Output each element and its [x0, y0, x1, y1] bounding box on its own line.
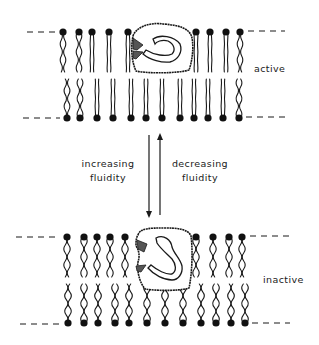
- lipid-top: [80, 233, 87, 277]
- lipid-head-icon: [121, 233, 128, 240]
- lipid-bottom: [109, 79, 116, 122]
- lipid-bottom: [143, 284, 150, 327]
- lipid-head-icon: [241, 319, 248, 326]
- lipid-top: [105, 28, 112, 72]
- lipid-bottom: [111, 284, 118, 327]
- label-decreasing-fluidity: decreasing fluidity: [169, 157, 231, 185]
- lipid-head-icon: [235, 114, 242, 121]
- lipid-bottom: [93, 79, 100, 122]
- lipid-bottom: [125, 284, 132, 327]
- lipid-bottom: [80, 284, 87, 327]
- lipid-head-icon: [219, 114, 226, 121]
- lipid-head-icon: [105, 28, 112, 35]
- membrane-fluidity-diagram: [0, 0, 319, 345]
- label-inactive: inactive: [263, 273, 304, 287]
- lipid-bottom: [158, 79, 165, 122]
- lipid-head-icon: [179, 319, 186, 326]
- lipid-bottom: [176, 79, 183, 122]
- lipid-top: [75, 28, 82, 72]
- lipid-top: [124, 28, 131, 72]
- lipid-top: [225, 233, 232, 277]
- lipid-top: [206, 28, 213, 72]
- enzyme-protein-inactive-icon: [136, 228, 192, 290]
- lipid-top: [106, 233, 113, 277]
- lipid-head-icon: [143, 319, 150, 326]
- lipid-bottom: [63, 79, 70, 122]
- active-bilayer: [23, 24, 285, 122]
- lipid-head-icon: [76, 114, 83, 121]
- lipid-head-icon: [111, 319, 118, 326]
- label-increasing-fluidity: increasing fluidity: [78, 157, 138, 185]
- lipid-head-icon: [59, 28, 66, 35]
- lipid-head-icon: [80, 319, 87, 326]
- lipid-bottom: [76, 79, 83, 122]
- lipid-top: [63, 233, 70, 277]
- lipid-top: [93, 233, 100, 277]
- lipid-head-icon: [212, 319, 219, 326]
- lipid-head-icon: [161, 319, 168, 326]
- lipid-head-icon: [63, 233, 70, 240]
- lipid-head-icon: [127, 114, 134, 121]
- lipid-head-icon: [94, 319, 101, 326]
- lipid-head-icon: [124, 28, 131, 35]
- increasing-line-1: increasing: [78, 157, 138, 171]
- lipid-bottom: [227, 284, 234, 327]
- lipid-bottom: [235, 79, 242, 122]
- lipid-head-icon: [192, 28, 199, 35]
- enzyme-protein-active-icon: [132, 24, 193, 73]
- lipid-bottom: [219, 79, 226, 122]
- lipid-head-icon: [209, 233, 216, 240]
- lipid-top: [209, 233, 216, 277]
- lipid-head-icon: [158, 114, 165, 121]
- lipid-bottom: [190, 79, 197, 122]
- lipid-top: [238, 233, 245, 277]
- active-label: active: [254, 63, 285, 74]
- lipid-bottom: [64, 284, 71, 327]
- decreasing-line-2: fluidity: [169, 171, 231, 185]
- lipid-head-icon: [176, 114, 183, 121]
- lipid-head-icon: [125, 319, 132, 326]
- lipid-bottom: [212, 284, 219, 327]
- lipid-bottom: [204, 79, 211, 122]
- lipid-head-icon: [222, 28, 229, 35]
- lipid-bottom: [142, 79, 149, 122]
- inactive-label: inactive: [263, 274, 304, 285]
- increasing-line-2: fluidity: [78, 171, 138, 185]
- lipid-top: [236, 28, 243, 72]
- lipid-head-icon: [93, 114, 100, 121]
- lipid-head-icon: [227, 319, 234, 326]
- lipid-head-icon: [93, 233, 100, 240]
- lipid-head-icon: [225, 233, 232, 240]
- decreasing-line-1: decreasing: [169, 157, 231, 171]
- lipid-head-icon: [190, 114, 197, 121]
- label-active: active: [254, 62, 285, 76]
- lipid-bottom: [94, 284, 101, 327]
- lipid-head-icon: [142, 114, 149, 121]
- lipid-bottom: [197, 284, 204, 327]
- lipid-head-icon: [64, 319, 71, 326]
- lipid-bottom: [179, 284, 186, 327]
- inactive-bilayer: [16, 228, 290, 327]
- lipid-head-icon: [75, 28, 82, 35]
- arrow-up-head-icon: [157, 133, 163, 140]
- lipid-top: [192, 233, 199, 277]
- lipid-head-icon: [206, 28, 213, 35]
- lipid-head-icon: [238, 233, 245, 240]
- lipid-bottom: [241, 284, 248, 327]
- lipid-head-icon: [88, 28, 95, 35]
- lipid-top: [121, 233, 128, 277]
- fluidity-arrows: [146, 133, 163, 218]
- lipid-head-icon: [204, 114, 211, 121]
- lipid-head-icon: [63, 114, 70, 121]
- lipid-head-icon: [80, 233, 87, 240]
- lipid-top: [59, 28, 66, 72]
- lipid-top: [222, 28, 229, 72]
- arrow-down-head-icon: [146, 211, 152, 218]
- lipid-head-icon: [236, 28, 243, 35]
- lipid-head-icon: [192, 233, 199, 240]
- lipid-bottom: [127, 79, 134, 122]
- lipid-head-icon: [109, 114, 116, 121]
- lipid-head-icon: [197, 319, 204, 326]
- lipid-head-icon: [106, 233, 113, 240]
- lipid-top: [88, 28, 95, 72]
